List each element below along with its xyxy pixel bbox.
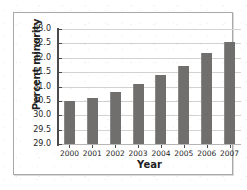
gridline xyxy=(58,130,241,131)
x-axis-title: Year xyxy=(58,159,241,170)
y-tick-mark xyxy=(58,144,62,145)
x-tick-mark xyxy=(115,145,116,148)
y-tick-label: 31.0 xyxy=(21,83,51,91)
y-tick-mark xyxy=(58,101,62,102)
y-tick-label: 29.0 xyxy=(21,140,51,148)
bar xyxy=(155,75,166,144)
gridline xyxy=(58,101,241,102)
x-tick-mark xyxy=(184,145,185,148)
x-tick-label: 2004 xyxy=(149,149,173,158)
gridline xyxy=(58,72,241,73)
plot-area xyxy=(58,29,241,144)
x-tick-label: 2006 xyxy=(195,149,219,158)
x-tick-label: 2005 xyxy=(172,149,196,158)
bar xyxy=(110,92,121,144)
figure: Percent minority 29.029.530.030.531.031.… xyxy=(0,0,247,190)
y-tick-mark xyxy=(58,58,62,59)
y-tick-mark xyxy=(58,43,62,44)
gridline xyxy=(58,87,241,88)
y-tick-label: 31.5 xyxy=(21,68,51,76)
bar xyxy=(178,66,189,144)
y-tick-label: 32.0 xyxy=(21,54,51,62)
y-tick-label: 29.5 xyxy=(21,126,51,134)
x-tick-label: 2002 xyxy=(103,149,127,158)
x-tick-mark xyxy=(138,145,139,148)
y-tick-label: 33.0 xyxy=(21,25,51,33)
gridline xyxy=(58,115,241,116)
y-tick-label: 30.5 xyxy=(21,97,51,105)
x-tick-mark xyxy=(92,145,93,148)
x-tick-label: 2000 xyxy=(57,149,81,158)
x-tick-label: 2003 xyxy=(126,149,150,158)
y-tick-label: 32.5 xyxy=(21,39,51,47)
x-tick-mark xyxy=(69,145,70,148)
gridline xyxy=(58,58,241,59)
chart-frame: Percent minority 29.029.530.030.531.031.… xyxy=(13,12,233,175)
y-tick-mark xyxy=(58,72,62,73)
bar xyxy=(201,53,212,144)
x-tick-mark xyxy=(161,145,162,148)
bar xyxy=(64,101,75,144)
gridline xyxy=(58,29,241,30)
y-tick-mark xyxy=(58,130,62,131)
x-tick-label: 2001 xyxy=(80,149,104,158)
gridline xyxy=(58,43,241,44)
gridline xyxy=(58,144,241,145)
bar xyxy=(133,84,144,144)
x-tick-label: 2007 xyxy=(218,149,242,158)
y-tick-mark xyxy=(58,115,62,116)
bar xyxy=(224,42,235,144)
x-tick-mark xyxy=(230,145,231,148)
y-tick-mark xyxy=(58,29,62,30)
bar xyxy=(87,98,98,144)
y-tick-mark xyxy=(58,87,62,88)
y-axis-title: Percent minority xyxy=(31,5,42,125)
y-tick-label: 30.0 xyxy=(21,111,51,119)
x-tick-mark xyxy=(207,145,208,148)
